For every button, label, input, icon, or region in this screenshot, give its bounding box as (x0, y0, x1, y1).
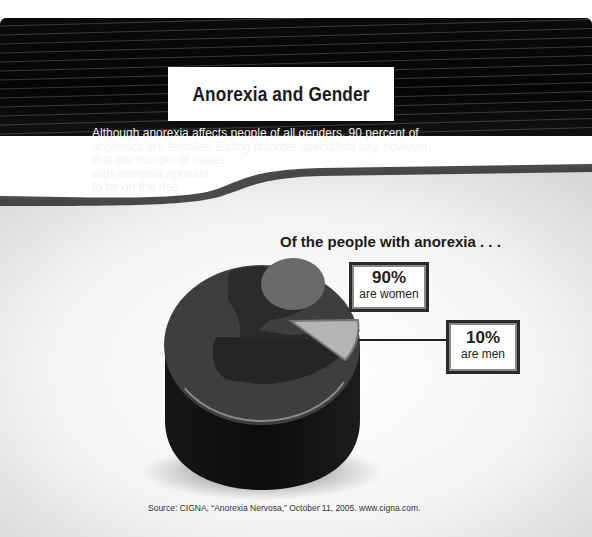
intro-line: with anorexia appears (92, 168, 492, 182)
intro-line: Although anorexia affects people of all … (92, 127, 492, 141)
callout-women: 90% are women (349, 262, 429, 312)
men-percent: 10% (449, 329, 517, 347)
intro-line: anorexics are females. Eating disorder s… (92, 141, 492, 155)
chart-title: Anorexia and Gender (192, 83, 369, 106)
chart-subtitle: Of the people with anorexia . . . (280, 233, 501, 250)
intro-paragraph: Although anorexia affects people of all … (92, 127, 492, 195)
intro-line: that the number of males (92, 154, 492, 168)
title-box: Anorexia and Gender (168, 67, 394, 121)
source-note: Source: CIGNA, “Anorexia Nervosa,” Octob… (148, 503, 420, 513)
women-percent: 90% (352, 269, 426, 287)
women-label: are women (352, 287, 426, 301)
callout-men: 10% are men (446, 320, 520, 374)
men-label: are men (449, 347, 517, 361)
intro-line: to be on the rise. (92, 181, 492, 195)
title-band: Anorexia and Gender (0, 18, 592, 136)
